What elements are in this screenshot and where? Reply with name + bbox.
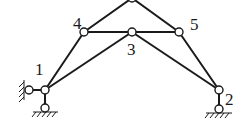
ground-hinge — [215, 105, 223, 113]
node-2 — [215, 86, 223, 94]
member-5-2 — [179, 32, 219, 90]
label-node-1: 1 — [35, 60, 44, 79]
wall-hinge — [25, 86, 33, 94]
node-5 — [175, 28, 183, 36]
label-node-4: 4 — [73, 14, 82, 33]
node-3 — [128, 28, 136, 36]
label-node-2: 2 — [225, 90, 234, 109]
member-top-5 — [132, 0, 179, 32]
truss-diagram: 1 2 3 4 5 — [0, 0, 251, 120]
label-node-5: 5 — [190, 15, 199, 34]
node-1 — [41, 86, 49, 94]
member-1-3 — [45, 32, 132, 90]
node-top — [128, 0, 136, 2]
ground-hinge — [41, 104, 49, 112]
member-3-2 — [132, 32, 219, 90]
member-1-4 — [45, 32, 84, 90]
member-4-top — [84, 0, 132, 32]
label-node-3: 3 — [127, 40, 136, 59]
